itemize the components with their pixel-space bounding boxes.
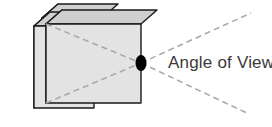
angle-of-view-diagram: Angle of View [0,0,272,127]
angle-of-view-label: Angle of View [168,53,272,72]
box-front-top [46,10,157,24]
box-front-face [46,24,141,103]
angle-of-view-vertex-dot [136,55,147,71]
diagram-canvas: Angle of View [0,0,272,127]
